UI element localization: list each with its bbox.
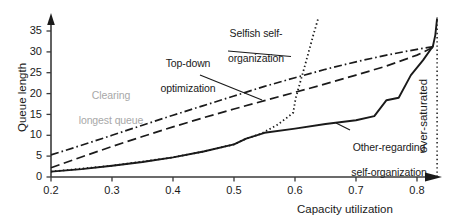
x-tick-label-0-7: 0.7 xyxy=(341,184,371,196)
x-tick-label-0-8: 0.8 xyxy=(402,184,432,196)
annotation-top-down-line1: Top-down xyxy=(166,57,211,69)
x-tick-label-0-2: 0.2 xyxy=(36,184,66,196)
y-tick-label-30: 30 xyxy=(22,45,42,57)
y-tick-label-5: 5 xyxy=(22,149,42,161)
x-axis-title: Capacity utilization xyxy=(297,203,393,215)
y-axis xyxy=(47,13,55,177)
annotation-over-saturated: over-saturated xyxy=(417,79,429,153)
annotation-other-regarding-line1: Other-regarding xyxy=(353,141,426,153)
annotation-other-regarding-line2: self-organization xyxy=(351,166,426,178)
queue-length-chart: 35 30 25 20 15 10 5 0 0.2 0.3 0.4 0.5 0.… xyxy=(0,0,452,224)
annotation-other-regarding-self-organization: Other-regarding self-organization xyxy=(330,128,448,178)
x-tick-label-0-3: 0.3 xyxy=(97,184,127,196)
annotation-selfish-line2: organization xyxy=(228,52,284,64)
annotation-clearing-longest-queue: Clearing longest queue xyxy=(56,76,166,126)
annotation-clearing-line1: Clearing xyxy=(92,89,130,101)
y-tick-label-0: 0 xyxy=(22,170,42,182)
y-axis-title: Queue length xyxy=(16,63,28,132)
annotation-top-down-line2: optimization xyxy=(161,82,216,94)
x-tick-label-0-6: 0.6 xyxy=(280,184,310,196)
y-tick-label-35: 35 xyxy=(22,24,42,36)
x-tick-label-0-4: 0.4 xyxy=(158,184,188,196)
annotation-clearing-line2: longest queue xyxy=(79,114,144,126)
annotation-selfish-line1: Selfish self- xyxy=(230,27,283,39)
x-tick-label-0-5: 0.5 xyxy=(219,184,249,196)
